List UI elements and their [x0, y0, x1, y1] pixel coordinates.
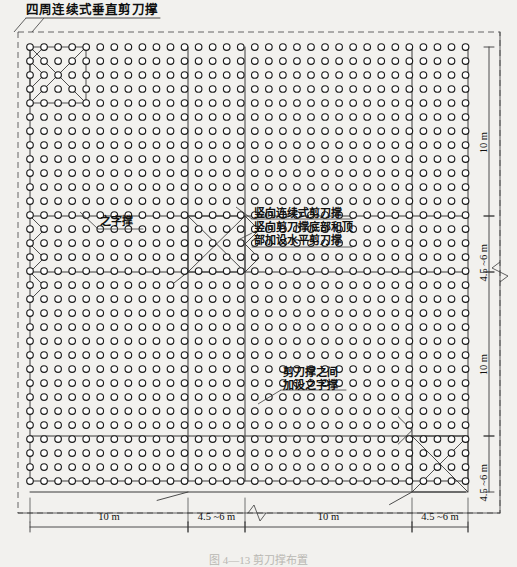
standard-node	[97, 268, 104, 275]
standard-node	[167, 408, 174, 415]
standard-node	[462, 240, 469, 247]
standard-node	[392, 380, 399, 387]
standard-node	[392, 58, 399, 65]
standard-node	[280, 422, 287, 429]
standard-node	[195, 464, 202, 471]
standard-node	[280, 254, 287, 261]
standard-node	[195, 184, 202, 191]
standard-node	[167, 156, 174, 163]
standard-node	[308, 422, 315, 429]
standard-node	[27, 142, 34, 149]
standard-node	[294, 394, 301, 401]
standard-node	[69, 212, 76, 219]
standard-node	[322, 310, 329, 317]
standard-node	[378, 450, 385, 457]
standard-node	[97, 380, 104, 387]
standard-node	[434, 212, 441, 219]
standard-node	[392, 338, 399, 345]
standard-node	[434, 156, 441, 163]
standard-node	[378, 478, 385, 485]
standard-node	[350, 212, 357, 219]
standard-node	[294, 464, 301, 471]
standard-node	[462, 338, 469, 345]
standard-node	[322, 478, 329, 485]
standard-node	[266, 44, 273, 51]
standard-node	[448, 310, 455, 317]
standard-node	[392, 44, 399, 51]
line-1: 竖向剪刀撑底部和顶	[254, 221, 353, 233]
standard-node	[27, 394, 34, 401]
standard-node	[181, 464, 188, 471]
standard-node	[223, 128, 230, 135]
standard-node	[364, 436, 371, 443]
standard-node	[153, 450, 160, 457]
standard-node	[181, 58, 188, 65]
standard-node	[97, 128, 104, 135]
standard-node	[69, 170, 76, 177]
standard-node	[266, 198, 273, 205]
standard-node	[125, 44, 132, 51]
standard-node	[167, 142, 174, 149]
standard-node	[83, 142, 90, 149]
standard-node	[83, 282, 90, 289]
standard-node	[406, 100, 413, 107]
standard-node	[350, 422, 357, 429]
standard-node	[294, 86, 301, 93]
standard-node	[153, 478, 160, 485]
standard-node	[308, 352, 315, 359]
standard-node	[322, 268, 329, 275]
standard-node	[448, 268, 455, 275]
standard-node	[55, 142, 62, 149]
standard-node	[434, 114, 441, 121]
standard-node	[266, 86, 273, 93]
standard-node	[364, 296, 371, 303]
standard-node	[308, 310, 315, 317]
standard-node	[322, 338, 329, 345]
standard-node	[420, 198, 427, 205]
standard-node	[434, 282, 441, 289]
standard-node	[308, 464, 315, 471]
standard-node	[378, 44, 385, 51]
standard-node	[223, 170, 230, 177]
standard-node	[111, 352, 118, 359]
standard-node	[237, 156, 244, 163]
standard-node	[266, 142, 273, 149]
standard-node	[209, 436, 216, 443]
standard-node	[125, 100, 132, 107]
standard-node	[139, 72, 146, 79]
standard-node	[27, 422, 34, 429]
standard-node	[195, 478, 202, 485]
standard-node	[434, 394, 441, 401]
standard-node	[167, 380, 174, 387]
zigzag-brace-top-left	[30, 47, 44, 89]
standard-node	[181, 254, 188, 261]
standard-node	[139, 198, 146, 205]
standard-node	[266, 408, 273, 415]
standard-node	[308, 170, 315, 177]
standard-node	[125, 254, 132, 261]
standard-node	[111, 184, 118, 191]
standard-node	[406, 226, 413, 233]
standard-node	[406, 464, 413, 471]
standard-node	[336, 422, 343, 429]
standard-node	[69, 44, 76, 51]
standard-node	[392, 86, 399, 93]
standard-node	[266, 478, 273, 485]
standard-node	[209, 86, 216, 93]
standard-node	[237, 324, 244, 331]
dimension-label-bottom: 10 m	[318, 511, 339, 522]
standard-node	[41, 156, 48, 163]
standard-node	[350, 142, 357, 149]
standard-node	[266, 310, 273, 317]
standard-node	[55, 324, 62, 331]
standard-node	[55, 282, 62, 289]
standard-node	[392, 170, 399, 177]
standard-node	[364, 212, 371, 219]
standard-node	[280, 310, 287, 317]
standard-node	[434, 310, 441, 317]
standard-node	[392, 212, 399, 219]
standard-node	[448, 184, 455, 191]
standard-node	[111, 338, 118, 345]
standard-node	[237, 366, 244, 373]
standard-node	[266, 296, 273, 303]
